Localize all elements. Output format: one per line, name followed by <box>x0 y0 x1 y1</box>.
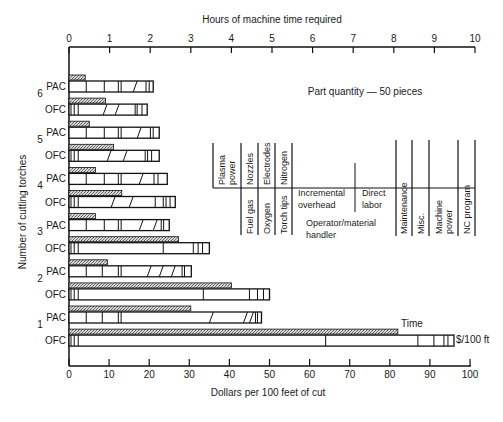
cost-bar <box>69 150 159 161</box>
torch-count-label: 2 <box>37 273 43 284</box>
torch-count-label: 5 <box>37 134 43 145</box>
bottom-axis-ticks: 0102030405060708090100 <box>66 359 479 380</box>
row-label-pac: PAC <box>46 312 66 323</box>
legend-label: Maintenance <box>399 182 409 234</box>
legend-label: handler <box>306 230 336 240</box>
legend-label: Torch tips <box>279 195 289 234</box>
row-label-pac: PAC <box>46 127 66 138</box>
time-bar <box>69 191 122 196</box>
bottom-tick-label: 40 <box>224 369 236 380</box>
row-label-ofc: OFC <box>45 289 66 300</box>
row-label-ofc: OFC <box>45 197 66 208</box>
cost-bar <box>69 289 270 300</box>
row-label-ofc: OFC <box>45 243 66 254</box>
legend-label: Fuel gas <box>245 199 255 234</box>
torch-count-label: 1 <box>37 319 43 330</box>
cost-bar <box>69 243 209 254</box>
legend-label: Direct <box>362 188 386 198</box>
row-label-pac: PAC <box>46 173 66 184</box>
cost-series-label: $/100 ft <box>456 334 490 345</box>
row-label-pac: PAC <box>46 81 66 92</box>
row-label-pac: PAC <box>46 220 66 231</box>
legend-label: Machine <box>434 200 444 234</box>
bar-row <box>69 214 169 231</box>
time-bar <box>69 329 398 334</box>
top-tick-label: 6 <box>310 33 316 44</box>
top-tick-label: 10 <box>469 33 481 44</box>
bar-row <box>69 191 175 208</box>
bottom-tick-label: 30 <box>184 369 196 380</box>
top-tick-label: 9 <box>432 33 438 44</box>
top-tick-label: 4 <box>229 33 235 44</box>
bottom-tick-label: 70 <box>344 369 356 380</box>
top-tick-label: 1 <box>107 33 113 44</box>
time-bar <box>69 306 191 311</box>
top-axis-ticks: 012345678910 <box>66 33 481 53</box>
row-label-ofc: OFC <box>45 335 66 346</box>
time-bar <box>69 237 179 242</box>
bar-row <box>69 167 167 184</box>
time-bar <box>69 121 89 126</box>
legend-label: Operator/material <box>306 218 376 228</box>
legend-label: Electrodes <box>262 142 272 185</box>
y-axis-title: Number of cutting torches <box>17 155 28 270</box>
bottom-axis-title: Dollars per 100 feet of cut <box>211 387 326 398</box>
bar-row <box>69 121 159 138</box>
top-tick-label: 2 <box>147 33 153 44</box>
time-bar <box>69 167 95 172</box>
time-bar <box>69 283 231 288</box>
bottom-tick-label: 50 <box>264 369 276 380</box>
legend-label: Misc. <box>416 213 426 234</box>
row-labels: PACOFCPACOFCPACOFCPACOFCPACOFCPACOFC <box>45 81 66 346</box>
legend-label: NC program <box>462 185 472 234</box>
bottom-tick-label: 90 <box>424 369 436 380</box>
bottom-tick-label: 100 <box>462 369 479 380</box>
row-label-ofc: OFC <box>45 150 66 161</box>
bar-row <box>69 237 209 254</box>
time-bar <box>69 98 106 103</box>
legend-label: Oxygen <box>262 203 272 234</box>
top-axis: Hours of machine time required 012345678… <box>66 14 481 53</box>
bar-row <box>69 98 147 115</box>
cost-bar <box>69 335 454 346</box>
top-axis-title: Hours of machine time required <box>202 14 342 25</box>
bar-row <box>69 306 261 323</box>
bottom-tick-label: 80 <box>384 369 396 380</box>
top-tick-label: 0 <box>66 33 72 44</box>
legend-label: power <box>444 209 454 234</box>
legend-label: power <box>227 160 237 185</box>
bar-row <box>69 283 270 300</box>
bar-row <box>69 75 153 92</box>
row-label-pac: PAC <box>46 266 66 277</box>
part-quantity-annotation: Part quantity — 50 pieces <box>308 86 423 97</box>
torch-count-label: 6 <box>37 88 43 99</box>
legend-label: Incremental <box>298 188 345 198</box>
time-bar <box>69 75 85 80</box>
bar-row <box>69 260 191 277</box>
time-series-label: Time <box>401 318 423 329</box>
top-tick-label: 5 <box>269 33 275 44</box>
bottom-tick-label: 10 <box>104 369 116 380</box>
legend-label: Plasma <box>217 155 227 185</box>
row-label-ofc: OFC <box>45 104 66 115</box>
time-bar <box>69 144 114 149</box>
cost-bar <box>69 312 261 323</box>
legend-label: Nitrogen <box>279 151 289 185</box>
top-tick-label: 8 <box>391 33 397 44</box>
bottom-tick-label: 60 <box>304 369 316 380</box>
bar-row <box>69 144 159 161</box>
top-tick-label: 7 <box>350 33 356 44</box>
cost-bar <box>69 81 153 92</box>
legend-label: Nozzles <box>245 152 255 185</box>
cost-bar <box>69 127 159 138</box>
legend-label: labor <box>362 200 382 210</box>
time-bar <box>69 260 108 265</box>
cost-component-legend: PlasmapowerNozzlesElectrodesNitrogenFuel… <box>213 140 475 240</box>
legend-label: overhead <box>298 200 336 210</box>
time-bar <box>69 214 95 219</box>
cost-bar <box>69 197 175 208</box>
bar-row <box>69 329 454 346</box>
top-tick-label: 3 <box>188 33 194 44</box>
bottom-axis: 0102030405060708090100 Dollars per 100 f… <box>66 359 479 398</box>
torch-count-label: 3 <box>37 226 43 237</box>
